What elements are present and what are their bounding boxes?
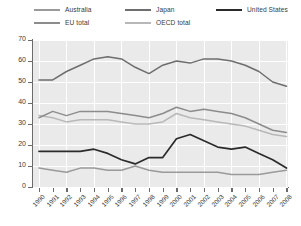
legend-item: Australia: [34, 6, 92, 13]
chart-legend: AustraliaJapanUnited StatesEU totalOECD …: [34, 6, 296, 32]
y-axis-tick-label: 70: [6, 35, 26, 42]
series-line: [39, 114, 286, 137]
series-line: [39, 166, 286, 174]
y-axis-tick: [28, 166, 32, 167]
chart-container: AustraliaJapanUnited StatesEU totalOECD …: [0, 0, 301, 226]
y-axis-tick: [28, 103, 32, 104]
x-axis-tick: [286, 188, 287, 192]
legend-swatch-icon: [34, 9, 60, 11]
legend-swatch-icon: [125, 9, 151, 11]
legend-label: EU total: [65, 19, 89, 26]
x-axis-tick: [273, 188, 274, 192]
series-line: [39, 135, 286, 169]
y-axis-tick: [28, 40, 32, 41]
legend-label: United States: [247, 6, 288, 13]
y-axis-tick: [28, 187, 32, 188]
x-axis-tick: [135, 188, 136, 192]
x-axis-tick: [163, 188, 164, 192]
y-axis-tick-label: 50: [6, 77, 26, 84]
x-axis-tick: [108, 188, 109, 192]
y-axis-tick-label: 30: [6, 119, 26, 126]
x-axis-tick: [231, 188, 232, 192]
legend-label: OECD total: [156, 19, 190, 26]
x-axis-tick: [80, 188, 81, 192]
x-axis-tick: [121, 188, 122, 192]
y-axis-tick-label: 20: [6, 140, 26, 147]
x-axis-tick: [259, 188, 260, 192]
y-axis-tick: [28, 124, 32, 125]
legend-item: OECD total: [125, 19, 190, 26]
legend-item: Japan: [125, 6, 174, 13]
x-axis-tick: [149, 188, 150, 192]
legend-item: United States: [216, 6, 288, 13]
x-axis-tick: [204, 188, 205, 192]
x-axis-tick: [94, 188, 95, 192]
legend-item: EU total: [34, 19, 89, 26]
y-axis-tick-label: 60: [6, 56, 26, 63]
legend-label: Australia: [65, 6, 92, 13]
legend-swatch-icon: [216, 9, 242, 11]
y-axis-tick: [28, 61, 32, 62]
x-axis-tick: [245, 188, 246, 192]
x-axis-tick: [218, 188, 219, 192]
legend-label: Japan: [156, 6, 174, 13]
plot-area: [33, 40, 288, 187]
y-axis-tick: [28, 145, 32, 146]
y-axis-tick-label: 0: [6, 182, 26, 189]
legend-swatch-icon: [125, 22, 151, 24]
y-axis-tick-label: 40: [6, 98, 26, 105]
series-line: [39, 57, 286, 86]
y-axis-tick: [28, 82, 32, 83]
gridline-horizontal: [33, 187, 288, 188]
x-axis-tick: [190, 188, 191, 192]
x-axis-tick: [53, 188, 54, 192]
series-lines: [33, 40, 288, 187]
legend-swatch-icon: [34, 22, 60, 24]
y-axis-tick-label: 10: [6, 161, 26, 168]
x-axis-tick: [66, 188, 67, 192]
x-axis-tick: [176, 188, 177, 192]
x-axis-tick: [39, 188, 40, 192]
